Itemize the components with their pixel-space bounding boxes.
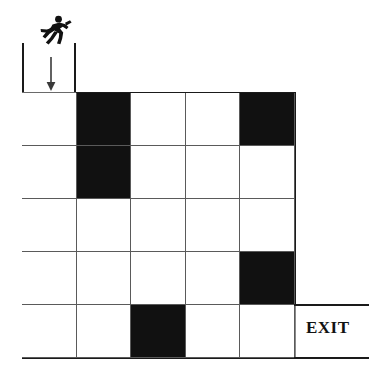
maze-cell-r2-c5	[240, 146, 295, 199]
maze-cell-r5-c5	[240, 305, 295, 358]
maze-cell-r5-c4	[186, 305, 241, 358]
maze-row	[22, 93, 295, 146]
maze-cell-r1-c4	[186, 93, 241, 146]
maze-cell-r4-c5	[240, 252, 295, 305]
maze-grid	[22, 93, 295, 358]
maze-cell-r5-c2	[77, 305, 132, 358]
maze-cell-r3-c2	[77, 199, 132, 252]
exit-corridor-wall-top	[294, 304, 369, 306]
maze-cell-r4-c1	[22, 252, 77, 305]
entrance-wall-right	[74, 43, 76, 95]
maze-cell-r1-c3	[131, 93, 186, 146]
exit-label: EXIT	[306, 318, 350, 338]
maze-cell-r3-c4	[186, 199, 241, 252]
maze-cell-r4-c4	[186, 252, 241, 305]
maze-cell-r1-c1	[22, 93, 77, 146]
maze-cell-r2-c4	[186, 146, 241, 199]
running-person-icon	[32, 14, 76, 46]
maze-cell-r1-c2	[77, 93, 132, 146]
arrow-down-icon	[40, 56, 62, 92]
maze-row	[22, 305, 295, 358]
maze-row	[22, 252, 295, 305]
maze-cell-r2-c1	[22, 146, 77, 199]
maze-cell-r4-c2	[77, 252, 132, 305]
maze-cell-r1-c5	[240, 93, 295, 146]
maze-cell-r5-c3	[131, 305, 186, 358]
maze-cell-r3-c3	[131, 199, 186, 252]
maze-cell-r3-c1	[22, 199, 77, 252]
entrance-wall-left	[22, 43, 24, 95]
maze-row	[22, 199, 295, 252]
maze-cell-r4-c3	[131, 252, 186, 305]
maze-figure: EXIT	[0, 0, 381, 387]
maze-cell-r2-c2	[77, 146, 132, 199]
exit-corridor-wall-bottom	[294, 357, 369, 359]
maze-cell-r5-c1	[22, 305, 77, 358]
maze-cell-r2-c3	[131, 146, 186, 199]
maze-row	[22, 146, 295, 199]
maze-cell-r3-c5	[240, 199, 295, 252]
